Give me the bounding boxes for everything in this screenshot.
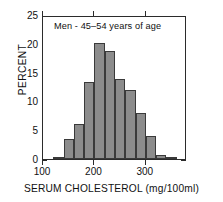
histogram-figure: PERCENT 0510152025 100200300 Men - 45–54… — [0, 0, 223, 202]
y-tick-label: 0 — [14, 155, 38, 165]
x-axis-label: SERUM CHOLESTEROL (mg/100ml) — [0, 183, 223, 194]
histogram-bar — [74, 124, 84, 159]
y-tick-label: 20 — [14, 40, 38, 50]
histogram-bar — [64, 139, 74, 159]
x-tick-label: 200 — [73, 167, 113, 177]
histogram-bar — [94, 43, 104, 159]
x-tick-label: 100 — [22, 167, 62, 177]
histogram-bar — [146, 136, 156, 159]
histogram-bar — [156, 155, 166, 159]
histogram-bar — [125, 90, 135, 159]
y-tick-label: 25 — [14, 11, 38, 21]
bars-layer — [43, 17, 185, 159]
x-tick-mark — [42, 160, 43, 165]
histogram-bar — [166, 157, 176, 159]
histogram-bar — [136, 113, 146, 159]
histogram-bar — [115, 79, 125, 159]
plot-area — [42, 16, 186, 160]
y-tick-mark-right — [181, 160, 186, 161]
histogram-bar — [105, 51, 115, 159]
panel-title: Men - 45–54 years of age — [54, 21, 161, 31]
histogram-bar — [84, 82, 94, 159]
histogram-bar — [53, 157, 63, 159]
x-tick-label: 300 — [125, 167, 165, 177]
x-tick-mark — [145, 160, 146, 165]
y-tick-label: 10 — [14, 97, 38, 107]
y-tick-label: 5 — [14, 126, 38, 136]
x-tick-mark — [93, 160, 94, 165]
y-tick-label: 15 — [14, 69, 38, 79]
